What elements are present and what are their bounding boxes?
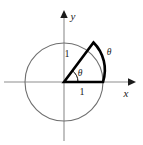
unit-circle-figure-container: x y 1 1 θ θ xyxy=(0,0,143,145)
x-axis-arrowhead xyxy=(128,78,136,86)
theta-inner-label: θ xyxy=(78,68,83,78)
radius-length-label: 1 xyxy=(65,48,70,59)
base-length-label: 1 xyxy=(80,86,85,97)
x-axis-label: x xyxy=(123,87,129,99)
theta-outer-label: θ xyxy=(107,47,112,57)
unit-circle-sector-diagram: x y 1 1 θ θ xyxy=(0,0,143,145)
y-axis-arrowhead xyxy=(60,10,67,18)
y-axis-label: y xyxy=(70,10,76,22)
